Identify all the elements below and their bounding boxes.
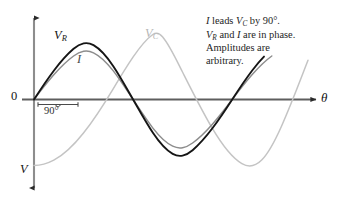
annotation-line-2: VR and I are in phase.: [206, 29, 332, 43]
annotation-line-1: I leads VC by 90°.: [206, 15, 332, 29]
curve-label-i: I: [77, 53, 81, 66]
axis-origin-label: 0: [11, 90, 17, 103]
figure-container: VR I VC 0 θ V 90° I leads VC by 90°. VR …: [0, 0, 339, 201]
y-axis-label: V: [20, 163, 28, 176]
curve-label-vr: VR: [54, 29, 67, 42]
annotation-text: I leads VC by 90°. VR and I are in phase…: [206, 15, 332, 67]
annotation-line-4: arbitrary.: [206, 55, 332, 68]
annotation-line-3: Amplitudes are: [206, 42, 332, 55]
phase-marker-label: 90°: [44, 106, 59, 117]
x-axis-label: θ: [321, 91, 327, 104]
curve-label-vc: VC: [145, 27, 158, 40]
